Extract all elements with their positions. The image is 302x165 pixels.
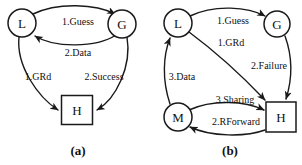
node-b-H-label: H — [276, 110, 285, 125]
edge-b-rforward — [190, 127, 265, 135]
node-b-G: G — [264, 11, 290, 37]
edge-label-a-success: 2.Success — [84, 71, 123, 82]
diagram-canvas: L G H 1.Guess 2.Data 1.GRd 2.Success (a) — [0, 0, 302, 165]
edge-label-a-guess: 1.Guess — [62, 16, 94, 27]
node-b-G-label: G — [272, 17, 281, 32]
node-b-L-label: L — [174, 16, 182, 31]
node-a-H: H — [62, 96, 93, 125]
node-a-L: L — [8, 9, 36, 37]
edge-label-b-rforward: 2.RForward — [212, 116, 260, 127]
panel-b-caption: (b) — [222, 143, 238, 158]
node-a-G-label: G — [117, 17, 126, 32]
edge-label-b-data: 3.Data — [169, 71, 196, 82]
protocol-figure: L G H 1.Guess 2.Data 1.GRd 2.Success (a) — [0, 0, 302, 165]
panel-a: L G H 1.Guess 2.Data 1.GRd 2.Success (a) — [8, 6, 136, 158]
edge-label-b-sharing: 3.Sharing — [216, 94, 255, 105]
node-b-M-label: M — [172, 110, 184, 125]
panel-a-caption: (a) — [70, 143, 85, 158]
node-b-H: H — [266, 102, 296, 132]
node-a-H-label: H — [72, 103, 81, 118]
node-b-L: L — [164, 9, 192, 37]
node-a-G: G — [108, 10, 136, 38]
edge-label-b-failure: 2.Failure — [251, 60, 287, 71]
edge-label-b-grd: 1.GRd — [218, 37, 244, 48]
edge-label-b-guess: 1.Guess — [217, 15, 249, 26]
node-b-M: M — [164, 103, 192, 131]
edge-a-guess — [33, 6, 115, 14]
node-a-L-label: L — [18, 16, 26, 31]
edge-a-data — [35, 35, 116, 45]
panel-b: L G M H 1.Guess 1.GRd 2.Failure 3.Data 3… — [164, 8, 296, 157]
edge-label-a-grd: 1.GRd — [25, 71, 51, 82]
edge-label-a-data: 2.Data — [65, 47, 92, 58]
